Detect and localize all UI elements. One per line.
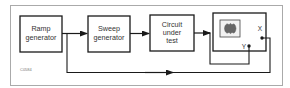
cut-label-3: test — [166, 36, 178, 45]
y-terminal-label: Y — [242, 43, 247, 50]
x-terminal-label: X — [258, 25, 263, 32]
sweep-generator-label-1: Sweep — [98, 24, 120, 33]
sweep-generator-label-2: generator — [94, 33, 125, 42]
ramp-generator-label-1: Ramp — [31, 24, 50, 33]
figure-code: C0584 — [20, 67, 33, 72]
sweep-generator-block: Sweep generator — [88, 16, 130, 52]
block-diagram: Ramp generator Sweep generator Circuit u… — [0, 0, 290, 88]
oscilloscope-block: X Y — [213, 13, 266, 51]
ramp-generator-label-2: generator — [26, 33, 57, 42]
circuit-under-test-block: Circuit under test — [150, 15, 194, 51]
scope-trace-icon — [225, 24, 237, 34]
ramp-generator-block: Ramp generator — [20, 16, 62, 52]
